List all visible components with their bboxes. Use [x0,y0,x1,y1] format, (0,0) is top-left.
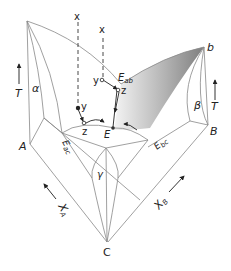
label-alpha: α [32,82,40,95]
liquidus-surface-shaded [114,47,204,130]
point-z-left [82,121,86,125]
XB-arrow [169,176,184,192]
path-left-z-to-E [86,120,104,123]
label-XB: XB [151,194,170,213]
point-y-left [76,106,80,110]
label-x-right: x [99,24,105,35]
XA-arrow [44,184,56,199]
ternary-phase-diagram: x x y y z z E Eab Eac Ebc α β γ A B C b … [0,0,231,271]
label-z-left: z [82,126,87,137]
point-z-right [116,88,120,92]
label-E: E [104,129,111,140]
label-C: C [103,246,111,259]
label-y-left: y [81,101,87,112]
label-x-left: x [74,11,80,22]
label-beta: β [193,99,201,112]
path-right-y-to-z [103,80,117,89]
label-T-right: T [211,100,219,113]
label-A: A [18,140,27,153]
label-B: B [210,125,218,138]
label-Ebc: Ebc [152,135,171,153]
label-gamma: γ [97,169,104,180]
label-z-right: z [121,85,126,96]
label-T-left: T [15,87,23,100]
label-Eac: Eac [58,138,75,156]
point-y-right [100,78,104,82]
label-b: b [207,41,214,54]
label-y-right: y [93,75,99,86]
point-E [111,126,115,130]
label-XA: XA [54,200,73,219]
